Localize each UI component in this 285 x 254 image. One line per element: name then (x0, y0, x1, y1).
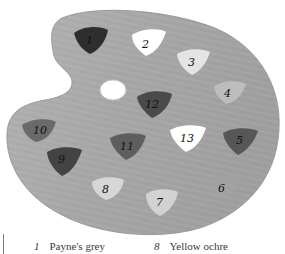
blob-label: 11 (120, 140, 134, 153)
legend-item: 8Yellow ochre (154, 240, 228, 252)
legend-item: 1Payne's grey (34, 240, 105, 252)
blob-label: 12 (145, 98, 159, 111)
blob-label: 1 (86, 34, 93, 47)
legend-number: 8 (154, 240, 160, 252)
blob-label: 9 (58, 153, 65, 166)
blob-label: 13 (180, 132, 194, 145)
blob-label: 4 (223, 87, 231, 100)
palette-illustration: 1 2 3 4 12 10 9 11 13 5 8 7 (0, 0, 285, 254)
thumb-hole (100, 80, 126, 100)
legend-number: 1 (34, 240, 40, 252)
blob-label: 8 (102, 183, 109, 196)
legend-name: Yellow ochre (170, 240, 228, 252)
blob-label: 5 (236, 134, 243, 147)
blob-label: 2 (141, 38, 149, 51)
blob-label: 7 (156, 196, 163, 209)
blob-label: 6 (218, 182, 225, 195)
blob-label: 3 (188, 56, 195, 69)
legend-name: Payne's grey (50, 240, 105, 252)
legend: 1Payne's grey 8Yellow ochre (0, 240, 285, 254)
blob-label: 10 (33, 124, 47, 137)
